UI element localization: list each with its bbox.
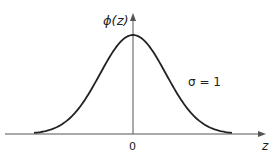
sigma-annotation: σ = 1 (188, 75, 221, 89)
x-axis-arrow-icon (258, 131, 266, 137)
y-axis-arrow-icon (130, 13, 136, 21)
y-axis-label: ϕ(z) (103, 13, 129, 28)
origin-tick-label: 0 (129, 140, 136, 153)
x-axis-label: z (261, 139, 269, 153)
normal-distribution-chart: ϕ(z) z 0 σ = 1 (0, 0, 274, 154)
